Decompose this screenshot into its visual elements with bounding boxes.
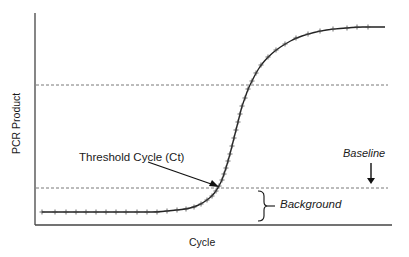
x-axis-label: Cycle (189, 236, 215, 248)
pcr-amplification-chart (0, 0, 409, 257)
baseline-arrow-head-icon (367, 178, 375, 184)
background-label: Background (280, 198, 341, 210)
curve-markers (40, 25, 371, 215)
y-axis-label: PCR Product (10, 94, 22, 154)
threshold-cycle-label: Threshold Cycle (Ct) (79, 151, 184, 163)
threshold-arrow-line (148, 162, 214, 185)
baseline-label: Baseline (343, 147, 385, 159)
threshold-arrow-head-icon (209, 180, 219, 187)
background-brace (258, 191, 268, 221)
